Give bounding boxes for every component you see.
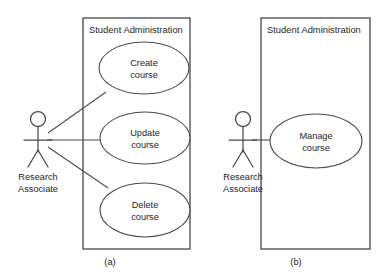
figure-caption-a: (a) xyxy=(104,256,115,267)
use-case-ellipse xyxy=(99,42,189,94)
use-case-ellipse xyxy=(100,183,190,237)
use-case-label-line1: Manage xyxy=(299,131,332,141)
diagram-a: Student Administration Create course Upd… xyxy=(18,18,190,267)
actor-label-line2: Associate xyxy=(18,184,58,194)
actor-leg-right xyxy=(243,150,253,167)
use-case-create-course[interactable]: Create course xyxy=(99,42,189,94)
use-case-label-line1: Update xyxy=(130,128,160,138)
actor-head-icon xyxy=(236,112,251,127)
use-case-ellipse xyxy=(270,114,362,168)
figure-caption-b: (b) xyxy=(290,256,301,267)
actor-leg-left xyxy=(28,150,38,167)
actor-research-associate-b[interactable]: Research Associate xyxy=(223,112,263,195)
actor-label-line1: Research xyxy=(223,172,262,182)
actor-head-icon xyxy=(31,112,46,127)
use-case-label-line2: course xyxy=(130,70,158,80)
system-title-a: Student Administration xyxy=(89,24,183,35)
actor-label-line1: Research xyxy=(18,172,57,182)
use-case-delete-course[interactable]: Delete course xyxy=(100,183,190,237)
use-case-label-line2: course xyxy=(131,140,159,150)
actor-leg-left xyxy=(233,150,243,167)
use-case-update-course[interactable]: Update course xyxy=(100,112,190,164)
diagram-b: Student Administration Manage course Res… xyxy=(223,18,370,267)
use-case-label-line2: course xyxy=(302,143,330,153)
use-case-label-line2: course xyxy=(131,212,159,222)
use-case-label-line1: Delete xyxy=(132,200,159,210)
use-case-manage-course[interactable]: Manage course xyxy=(270,114,362,168)
actor-label-line2: Associate xyxy=(223,184,263,194)
system-title-b: Student Administration xyxy=(267,24,361,35)
use-case-label-line1: Create xyxy=(130,58,158,68)
use-case-ellipse xyxy=(100,112,190,164)
actor-research-associate-a[interactable]: Research Associate xyxy=(18,112,58,195)
actor-leg-right xyxy=(38,150,48,167)
use-case-diagram-canvas: Student Administration Create course Upd… xyxy=(0,0,392,277)
